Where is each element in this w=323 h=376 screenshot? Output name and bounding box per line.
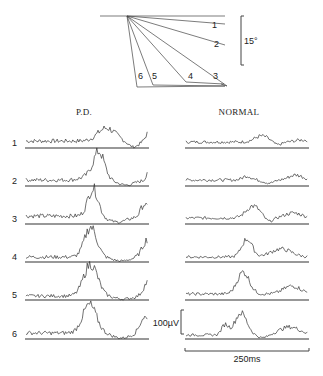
row-label-6: 6 — [12, 329, 17, 339]
angle-scale-label: 15° — [244, 36, 258, 46]
row-label-1: 1 — [12, 138, 17, 148]
row-label-2: 2 — [12, 176, 17, 186]
normal-trace-1 — [186, 134, 307, 145]
row-labels: 123456 — [12, 138, 17, 339]
normal-trace-5 — [186, 271, 307, 296]
angle-diagram: 1 2 3 4 5 6 15° — [100, 16, 258, 87]
angle-label-3: 3 — [213, 71, 218, 81]
angle-label-6: 6 — [138, 71, 143, 81]
time-scale-bar — [185, 348, 309, 351]
panel-title-normal: NORMAL — [219, 107, 260, 117]
normal-trace-6 — [186, 311, 307, 338]
amplitude-scale-bar — [181, 310, 184, 334]
pd-trace-5 — [26, 261, 147, 300]
pd-trace-6 — [26, 301, 147, 339]
angle-label-1: 1 — [212, 20, 217, 30]
time-scale-label: 250ms — [233, 354, 261, 364]
row-label-3: 3 — [12, 214, 17, 224]
panel-title-pd: P.D. — [76, 107, 92, 117]
amplitude-scale-label: 100µV — [153, 318, 179, 328]
figure-canvas: 1 2 3 4 5 6 15° P.D. NORMAL 123456 100µV… — [0, 0, 323, 376]
pd-trace-3 — [26, 184, 147, 224]
row-label-4: 4 — [12, 252, 17, 262]
pd-traces — [25, 126, 149, 339]
normal-trace-2 — [186, 174, 307, 184]
pd-trace-2 — [26, 148, 147, 186]
angle-label-4: 4 — [188, 71, 193, 81]
normal-trace-3 — [186, 205, 307, 222]
angle-label-2: 2 — [214, 39, 219, 49]
angle-label-5: 5 — [152, 71, 157, 81]
row-label-5: 5 — [12, 290, 17, 300]
pd-trace-4 — [26, 226, 147, 262]
normal-trace-4 — [186, 238, 307, 258]
pd-trace-1 — [26, 126, 147, 148]
normal-traces — [185, 134, 309, 339]
